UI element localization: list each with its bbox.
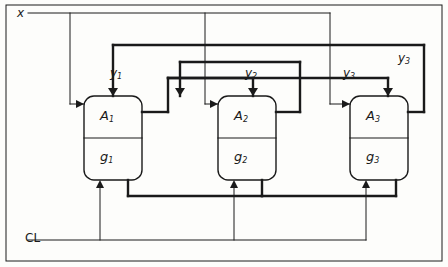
block-3-bottom-label: g3: [366, 149, 379, 164]
y3-sub: 3: [350, 72, 355, 81]
y3-outer-sub: 3: [405, 57, 410, 66]
block-2-top-label: A2: [234, 108, 248, 123]
y3-label-outer: y3: [398, 51, 410, 65]
block-3-top-label: A3: [366, 108, 380, 123]
x-input-bus: [28, 13, 350, 104]
diagram-canvas: x CL y1 y2 y3 y3 A1 g1 A2 g2 A3 g3: [0, 0, 448, 267]
y1-label: y1: [110, 66, 122, 80]
block-1-top-base: A: [100, 108, 109, 123]
block-2-bottom-label: g2: [234, 149, 247, 164]
block-2-top-base: A: [234, 108, 243, 123]
block-1-bottom-label: g1: [100, 149, 113, 164]
block-1-top-label: A1: [100, 108, 114, 123]
block-1-bottom-sub: 1: [108, 156, 113, 165]
block-3-bottom-sub: 3: [374, 156, 379, 165]
y1-sub: 1: [117, 72, 122, 81]
y2-label: y2: [245, 66, 257, 80]
feedback-arrowheads: [108, 88, 393, 96]
circuit-schematic: [0, 0, 448, 267]
block-2-top-sub: 2: [243, 115, 248, 124]
clock-label: CL: [25, 231, 40, 245]
input-x-label: x: [17, 6, 24, 20]
y2-sub: 2: [252, 72, 257, 81]
y3-label-inner: y3: [343, 66, 355, 80]
block-3-top-sub: 3: [375, 115, 380, 124]
y1-to-block3-bus: [168, 78, 388, 96]
block-bottom-arrows: [96, 180, 370, 188]
block-2-bottom-sub: 2: [242, 156, 247, 165]
block-3-top-base: A: [366, 108, 375, 123]
bottom-feedback-bus: [128, 180, 396, 196]
block-1-top-sub: 1: [109, 115, 114, 124]
